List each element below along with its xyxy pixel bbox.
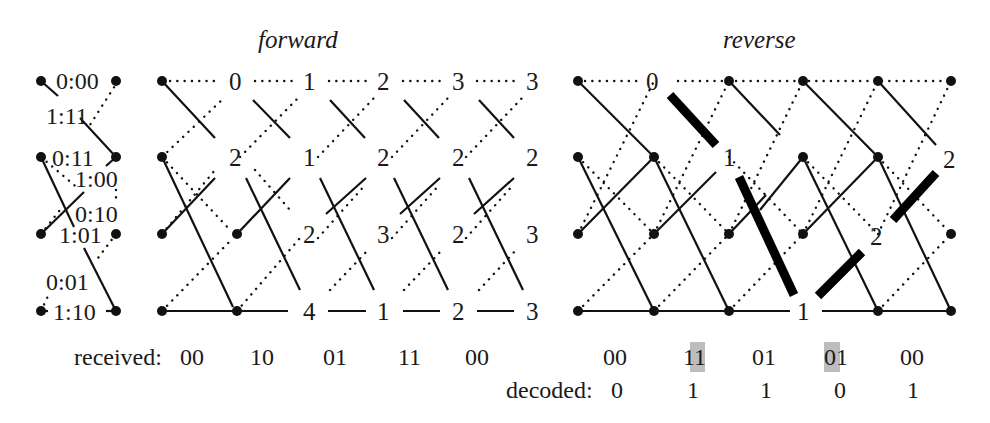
path-metric: 2 (377, 68, 390, 95)
path-metric: 1 (303, 144, 316, 171)
decoded-bit: 0 (611, 377, 623, 403)
received-bits: 10 (250, 344, 274, 370)
decoded-row: decoded: 0 1 1 0 1 (506, 377, 919, 403)
received-row: received: 00 10 01 11 00 00 11 01 01 00 (74, 342, 924, 372)
decoded-bit: 0 (834, 377, 846, 403)
legend-label: 1:11 (46, 103, 88, 129)
path-metric: 0 (229, 68, 242, 95)
reverse-trellis: 0 1 2 2 1 (573, 68, 956, 325)
decoded-bit: 1 (760, 377, 772, 403)
path-metric: 2 (452, 144, 465, 171)
path-metric: 1 (723, 144, 736, 171)
path-metric: 4 (303, 298, 316, 325)
legend-label: 1:00 (75, 166, 118, 192)
path-metric: 3 (526, 68, 539, 95)
received-bits: 00 (180, 344, 204, 370)
path-metric: 1 (377, 298, 390, 325)
legend-label: 1:01 (59, 222, 102, 248)
path-metric: 2 (303, 221, 316, 248)
path-metric: 2 (452, 298, 465, 325)
received-bits: 11 (683, 344, 706, 370)
decoded-bit: 1 (687, 377, 699, 403)
received-bits: 11 (398, 344, 421, 370)
received-bits: 00 (465, 344, 489, 370)
path-metric: 1 (797, 298, 810, 325)
path-metric: 2 (943, 146, 956, 173)
legend-label: 0:00 (56, 68, 99, 94)
path-metric: 2 (870, 223, 883, 250)
path-metric: 0 (646, 68, 659, 95)
path-metric: 3 (377, 221, 390, 248)
path-metric: 2 (452, 221, 465, 248)
received-label: received: (74, 344, 162, 370)
received-bits: 01 (752, 344, 776, 370)
reverse-title: reverse (723, 26, 796, 53)
legend-label: 0:01 (46, 269, 89, 295)
decoded-bit: 1 (907, 377, 919, 403)
received-bits: 00 (900, 344, 924, 370)
decoded-label: decoded: (506, 377, 593, 403)
received-bits: 01 (824, 344, 848, 370)
forward-trellis: 0 1 2 3 3 2 1 2 2 2 2 3 2 3 4 1 2 3 (157, 68, 539, 325)
path-metric: 2 (229, 144, 242, 171)
path-metric: 2 (377, 144, 390, 171)
received-bits: 01 (323, 344, 347, 370)
path-metric: 1 (303, 68, 316, 95)
transition-legend: 0:00 1:11 0:11 1:00 0:10 1:01 0:01 1:10 (36, 68, 121, 325)
viterbi-trellis-diagram: forward reverse 0:00 1:11 0:11 1:00 0:10… (0, 0, 990, 423)
received-bits: 00 (603, 344, 627, 370)
path-metric: 3 (452, 68, 465, 95)
forward-title: forward (258, 26, 338, 53)
path-metric: 3 (526, 221, 539, 248)
path-metric: 2 (526, 144, 539, 171)
legend-label: 1:10 (53, 299, 96, 325)
path-metric: 3 (526, 298, 539, 325)
